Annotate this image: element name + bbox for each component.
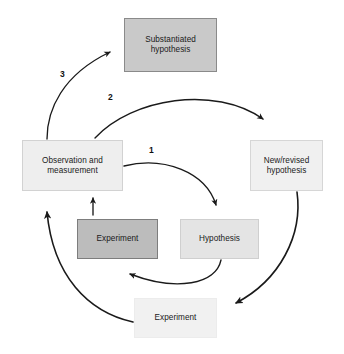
arrow-observation-to-new-revised-hypothesis [95, 99, 263, 138]
step-label-2: 2 [108, 92, 113, 102]
step-label-1: 1 [149, 145, 154, 155]
arrow-hypothesis-to-experiment-inner [130, 260, 221, 284]
node-experiment-inner: Experiment [77, 219, 158, 259]
node-hypothesis: Hypothesis [180, 219, 259, 259]
step-label-3: 3 [60, 69, 65, 79]
node-observation-and-measurement: Observation and measurement [22, 140, 123, 191]
node-new-revised-hypothesis: New/revised hypothesis [250, 140, 323, 191]
node-substantiated-hypothesis: Substantiated hypothesis [124, 18, 217, 72]
arrow-observation-to-hypothesis [124, 163, 216, 205]
node-experiment-bottom: Experiment [134, 298, 217, 338]
arrow-observation-to-substantiated-hypothesis [47, 52, 110, 139]
